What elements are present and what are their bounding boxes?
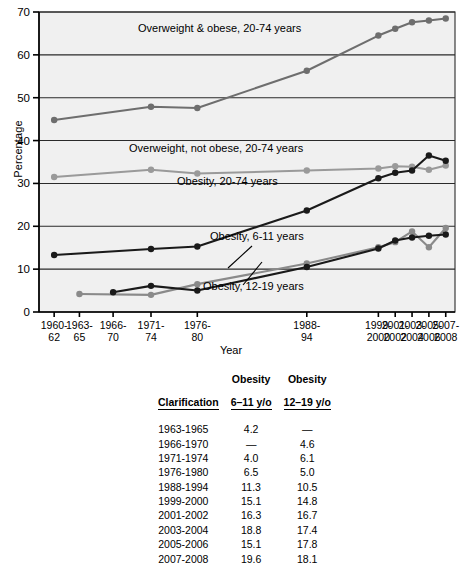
x-axis-tick-label-4: 1976- [184,319,211,331]
table-cell-period: 1971-1974 [152,451,225,465]
series-marker-0-5 [392,26,398,32]
series-marker-4-2 [194,287,200,293]
x-axis-tick-label-0: 62 [48,331,60,343]
table-row: 1999-200015.114.8 [152,494,337,508]
table-header: Clarification Obesity 6–11 y/o Obesity 1… [152,362,337,422]
table-cell-value-6-11: 15.1 [225,537,278,551]
series-marker-2-8 [443,158,449,164]
x-axis-tick-label-10: 2008 [434,331,458,343]
column-header-obesity-12-19-line1: Obesity [288,373,327,385]
series-marker-2-5 [392,170,398,176]
table-cell-period: 2007-2008 [152,551,225,565]
x-axis-title: Year [0,344,462,356]
y-axis-tick-label-10: 10 [17,263,30,275]
obesity-trend-chart: 0102030405060701960-621963-651966-701971… [0,0,462,358]
series-marker-3-7 [426,244,432,250]
series-marker-2-2 [194,243,200,249]
table-cell-value-12-19: 18.1 [278,551,337,565]
series-marker-4-0 [110,289,116,295]
series-marker-4-3 [304,264,310,270]
table-cell-period: 1963-1965 [152,422,225,436]
x-axis-tick-label-0: 1960- [41,319,68,331]
x-axis-tick-label-10: 2007- [432,319,459,331]
clarification-table-wrap: Clarification Obesity 6–11 y/o Obesity 1… [0,362,462,566]
table-cell-value-6-11: 4.2 [225,422,278,436]
table-body: 1963-19654.2—1966-1970—4.61971-19744.06.… [152,422,337,566]
table-row: 1963-19654.2— [152,422,337,436]
table-cell-value-6-11: 15.1 [225,494,278,508]
table-cell-value-12-19: 17.8 [278,537,337,551]
table-header-row: Clarification Obesity 6–11 y/o Obesity 1… [152,362,337,422]
table-cell-value-6-11: — [225,436,278,450]
table-row: 1976-19806.55.0 [152,465,337,479]
series-marker-0-4 [375,32,381,38]
series-marker-3-2 [194,281,200,287]
table-cell-period: 1976-1980 [152,465,225,479]
table-cell-value-6-11: 6.5 [225,465,278,479]
table-cell-value-6-11: 11.3 [225,480,278,494]
series-marker-4-7 [426,233,432,239]
table-row: 2007-200819.618.1 [152,551,337,565]
table-cell-value-12-19: 14.8 [278,494,337,508]
table-row: 2001-200216.316.7 [152,508,337,522]
annotation-label-0: Overweight & obese, 20-74 years [138,22,302,34]
table-cell-value-6-11: 4.0 [225,451,278,465]
series-marker-0-1 [148,104,154,110]
column-header-clarification-label: Clarification [158,397,219,410]
series-marker-0-2 [194,105,200,111]
y-axis-tick-label-0: 0 [24,306,30,318]
annotation-label-2: Obesity, 20-74 years [177,175,278,187]
annotation-label-3: Obesity, 6-11 years [210,230,304,242]
series-marker-3-0 [76,291,82,297]
series-marker-1-7 [426,167,432,173]
chart-canvas: 0102030405060701960-621963-651966-701971… [0,0,462,358]
y-axis-tick-label-50: 50 [17,92,30,104]
x-axis-tick-label-2: 1966- [100,319,127,331]
series-marker-2-0 [51,252,57,258]
table-cell-period: 2005-2006 [152,537,225,551]
y-axis-tick-label-20: 20 [17,220,30,232]
series-marker-1-3 [304,167,310,173]
x-axis-tick-label-5: 1988- [293,319,320,331]
column-header-obesity-6-11: Obesity 6–11 y/o [225,362,278,422]
table-cell-value-12-19: 17.4 [278,523,337,537]
column-header-obesity-12-19: Obesity 12–19 y/o [278,362,337,422]
x-axis-tick-label-1: 1963- [66,319,93,331]
series-marker-0-0 [51,117,57,123]
table-row: 1988-199411.310.5 [152,480,337,494]
series-marker-1-0 [51,174,57,180]
table-row: 1966-1970—4.6 [152,436,337,450]
series-marker-0-7 [426,17,432,23]
column-header-obesity-6-11-line2: 6–11 y/o [231,397,272,410]
table-cell-value-12-19: — [278,422,337,436]
series-marker-2-3 [304,207,310,213]
table-cell-value-12-19: 16.7 [278,508,337,522]
table-cell-period: 1999-2000 [152,494,225,508]
series-marker-1-5 [392,163,398,169]
series-marker-0-3 [304,68,310,74]
table-cell-period: 1988-1994 [152,480,225,494]
series-marker-3-8 [443,225,449,231]
series-marker-2-7 [426,152,432,158]
x-axis-tick-label-5: 94 [301,331,313,343]
series-marker-3-1 [148,292,154,298]
y-axis-title: Percentage [12,104,24,194]
x-axis-tick-label-1: 65 [74,331,86,343]
table-row: 2003-200418.817.4 [152,523,337,537]
table-row: 2005-200615.117.8 [152,537,337,551]
table-cell-value-12-19: 6.1 [278,451,337,465]
annotation-label-4: Obesity, 12-19 years [203,280,304,292]
series-marker-1-4 [375,165,381,171]
x-axis-tick-label-4: 80 [191,331,203,343]
table-cell-value-12-19: 4.6 [278,436,337,450]
column-header-clarification: Clarification [152,362,225,422]
x-axis-tick-label-3: 74 [145,331,157,343]
series-marker-0-6 [409,19,415,25]
column-header-obesity-12-19-line2: 12–19 y/o [284,397,331,410]
table-cell-period: 2001-2002 [152,508,225,522]
series-marker-0-8 [443,15,449,21]
x-axis-tick-label-3: 1971- [138,319,165,331]
table-cell-value-6-11: 16.3 [225,508,278,522]
table-cell-value-12-19: 10.5 [278,480,337,494]
